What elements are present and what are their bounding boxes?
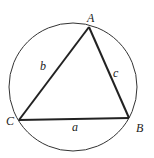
vertex-label-b: B [136, 122, 143, 134]
diagram-canvas [0, 0, 154, 158]
side-c [89, 27, 129, 118]
vertex-label-a: A [87, 12, 94, 24]
side-b [19, 27, 89, 120]
vertex-label-c: C [6, 115, 14, 127]
circumscribed-triangle-diagram: A B C a b c [0, 0, 154, 158]
side-label-b: b [40, 60, 46, 72]
side-label-c: c [113, 67, 118, 79]
side-label-a: a [72, 121, 78, 133]
